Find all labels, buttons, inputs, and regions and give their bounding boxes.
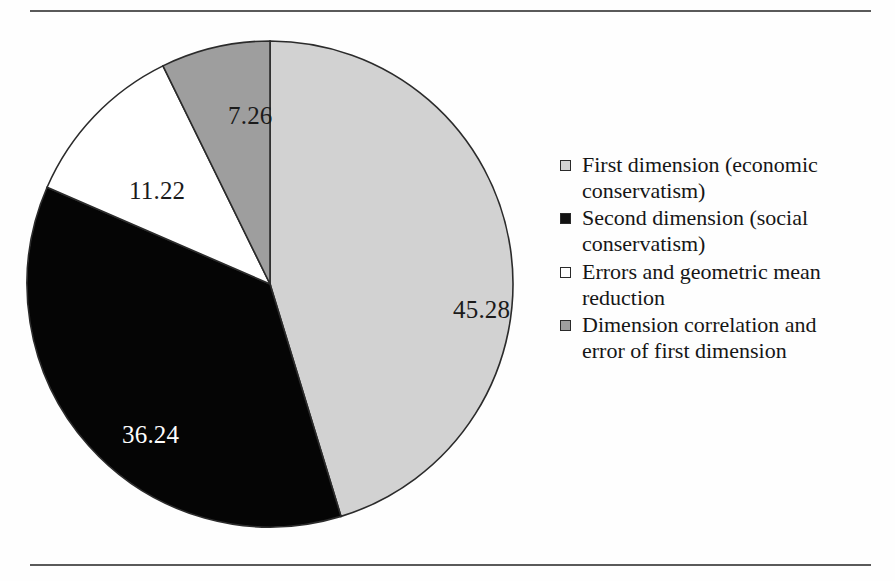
bottom-horizontal-rule: [30, 564, 871, 566]
slice-data-label-errors: 11.22: [129, 178, 185, 203]
legend-swatch-errors: [560, 267, 571, 278]
slice-data-label-first-dimension: 45.28: [453, 297, 510, 322]
legend-item-label: Dimension correlation and error of first…: [582, 312, 860, 363]
chart-legend: First dimension (economic conservatism)S…: [560, 152, 870, 366]
top-horizontal-rule: [30, 10, 871, 12]
legend-item-label: Errors and geometric mean reduction: [582, 259, 860, 310]
legend-item-label: First dimension (economic conservatism): [582, 152, 860, 203]
legend-item[interactable]: First dimension (economic conservatism): [560, 152, 870, 203]
legend-item[interactable]: Errors and geometric mean reduction: [560, 259, 870, 310]
legend-swatch-first-dimension: [560, 160, 571, 171]
legend-swatch-second-dimension: [560, 213, 571, 224]
legend-swatch-dimension-correlation: [560, 320, 571, 331]
legend-item-label: Second dimension (social conservatism): [582, 205, 860, 256]
legend-item[interactable]: Second dimension (social conservatism): [560, 205, 870, 256]
pie-chart: 45.28 36.24 11.22 7.26: [26, 38, 516, 532]
legend-item[interactable]: Dimension correlation and error of first…: [560, 312, 870, 363]
slice-data-label-second-dimension: 36.24: [122, 422, 179, 447]
slice-data-label-dimension-correlation: 7.26: [228, 103, 273, 128]
figure-container: 45.28 36.24 11.22 7.26 First dimension (…: [0, 0, 895, 581]
